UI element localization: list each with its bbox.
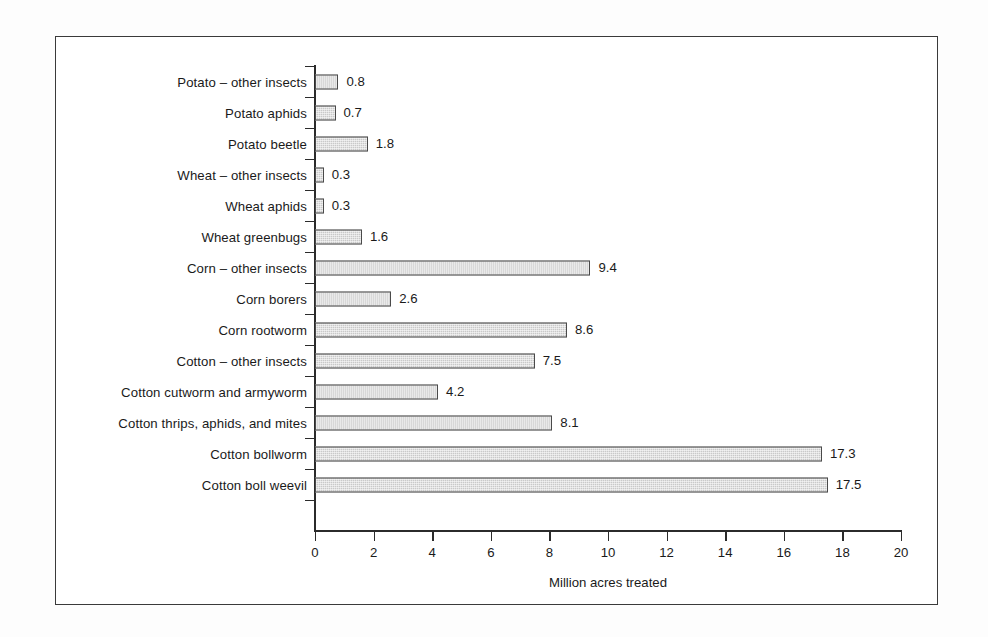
x-axis-tick: [901, 530, 902, 541]
bar: [315, 322, 567, 337]
bar-row: Potato – other insects0.8: [56, 66, 939, 97]
bar-row: Potato aphids0.7: [56, 97, 939, 128]
x-axis-tick: [315, 530, 316, 541]
x-axis-tick: [725, 530, 726, 541]
category-label: Wheat – other insects: [177, 167, 314, 182]
bar-row: Wheat aphids0.3: [56, 190, 939, 221]
x-axis-tick: [374, 530, 375, 541]
bar: [315, 477, 828, 492]
bar: [315, 446, 822, 461]
category-label: Wheat greenbugs: [201, 229, 314, 244]
bar: [315, 415, 552, 430]
y-axis-tick: [305, 376, 315, 377]
x-axis-tick-label: 6: [487, 545, 494, 560]
bar-value-label: 1.6: [362, 229, 388, 244]
y-axis-tick: [305, 407, 315, 408]
x-axis-tick-label: 2: [370, 545, 377, 560]
bar: [315, 136, 368, 151]
y-axis-tick: [305, 128, 315, 129]
y-axis-tick: [305, 469, 315, 470]
x-axis-tick-label: 8: [546, 545, 553, 560]
x-axis-tick-label: 0: [311, 545, 318, 560]
y-axis-tick: [305, 345, 315, 346]
x-axis-tick-label: 20: [894, 545, 909, 560]
y-axis-tick: [305, 314, 315, 315]
category-label: Cotton boll weevil: [202, 477, 314, 492]
x-axis-tick: [667, 530, 668, 541]
bar: [315, 167, 324, 182]
bar-row: Cotton boll weevil17.5: [56, 469, 939, 500]
figure-frame: Potato – other insects0.8Potato aphids0.…: [55, 36, 938, 605]
bar-row: Corn rootworm8.6: [56, 314, 939, 345]
y-axis-tick: [305, 500, 315, 501]
x-axis-tick-label: 4: [429, 545, 436, 560]
bar: [315, 353, 535, 368]
x-axis-tick-label: 12: [659, 545, 674, 560]
bar: [315, 229, 362, 244]
bar-value-label: 0.3: [324, 167, 350, 182]
x-axis-title: Million acres treated: [314, 575, 902, 590]
bar: [315, 291, 391, 306]
category-label: Potato – other insects: [177, 74, 314, 89]
y-axis-tick: [305, 159, 315, 160]
scanned-page-background: Potato – other insects0.8Potato aphids0.…: [0, 0, 988, 637]
x-axis-tick-label: 10: [601, 545, 616, 560]
bar-row: Potato beetle1.8: [56, 128, 939, 159]
category-label: Wheat aphids: [225, 198, 314, 213]
y-axis-tick: [305, 97, 315, 98]
x-axis-tick: [491, 530, 492, 541]
x-axis-tick: [842, 530, 843, 541]
category-label: Corn – other insects: [187, 260, 314, 275]
y-axis-tick: [305, 190, 315, 191]
bar-value-label: 0.8: [338, 74, 364, 89]
bar-value-label: 1.8: [368, 136, 394, 151]
bar-value-label: 8.6: [567, 322, 593, 337]
bar-value-label: 8.1: [552, 415, 578, 430]
bar-row: Cotton cutworm and armyworm4.2: [56, 376, 939, 407]
bar: [315, 198, 324, 213]
category-label: Cotton thrips, aphids, and mites: [118, 415, 314, 430]
category-label: Cotton cutworm and armyworm: [121, 384, 314, 399]
bar-value-label: 7.5: [535, 353, 561, 368]
bar-row: Wheat – other insects0.3: [56, 159, 939, 190]
bar: [315, 384, 438, 399]
bar: [315, 105, 336, 120]
bar-value-label: 9.4: [590, 260, 616, 275]
bar-row: Cotton bollworm17.3: [56, 438, 939, 469]
x-axis-tick: [549, 530, 550, 541]
y-axis-tick: [305, 66, 315, 67]
bar-value-label: 0.7: [336, 105, 362, 120]
bar: [315, 260, 590, 275]
y-axis-tick: [305, 438, 315, 439]
bar-row: Cotton – other insects7.5: [56, 345, 939, 376]
x-axis-tick-label: 14: [718, 545, 733, 560]
bar-row: Wheat greenbugs1.6: [56, 221, 939, 252]
bar-value-label: 4.2: [438, 384, 464, 399]
category-label: Corn rootworm: [218, 322, 314, 337]
y-axis-tick: [305, 221, 315, 222]
x-axis-tick: [784, 530, 785, 541]
category-label: Potato beetle: [228, 136, 314, 151]
bar-row: Cotton thrips, aphids, and mites8.1: [56, 407, 939, 438]
bar: [315, 74, 338, 89]
x-axis-tick: [432, 530, 433, 541]
bar-value-label: 0.3: [324, 198, 350, 213]
x-axis-tick-label: 18: [835, 545, 850, 560]
bar-chart-plot-area: Potato – other insects0.8Potato aphids0.…: [56, 37, 939, 606]
category-label: Cotton – other insects: [177, 353, 314, 368]
category-label: Potato aphids: [225, 105, 314, 120]
bar-row: Corn borers2.6: [56, 283, 939, 314]
category-label: Corn borers: [236, 291, 314, 306]
category-label: Cotton bollworm: [210, 446, 314, 461]
x-axis-tick-label: 16: [776, 545, 791, 560]
bar-value-label: 17.5: [828, 477, 862, 492]
bar-value-label: 17.3: [822, 446, 856, 461]
bar-row: Corn – other insects9.4: [56, 252, 939, 283]
y-axis-tick: [305, 252, 315, 253]
bar-value-label: 2.6: [391, 291, 417, 306]
x-axis-tick: [608, 530, 609, 541]
y-axis-tick: [305, 283, 315, 284]
